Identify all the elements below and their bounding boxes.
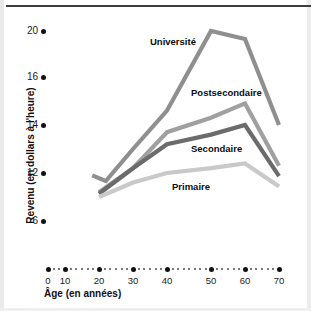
series-label-université: Université — [150, 36, 196, 47]
series-label-primaire: Primaire — [172, 181, 210, 192]
series-label-postsecondaire: Postsecondaire — [191, 87, 262, 98]
series-label-secondaire: Secondaire — [191, 143, 242, 154]
series-group — [92, 31, 279, 197]
chart-page: Revenu (en dollars à l'heure) Âge (en an… — [0, 0, 311, 311]
series-line-postsecondaire — [99, 103, 279, 192]
series-line-université — [92, 31, 279, 181]
